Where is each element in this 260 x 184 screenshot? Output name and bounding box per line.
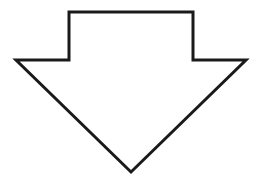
diagram-canvas	[0, 0, 260, 184]
down-arrow-icon	[0, 0, 260, 184]
down-arrow-shape	[16, 12, 246, 172]
